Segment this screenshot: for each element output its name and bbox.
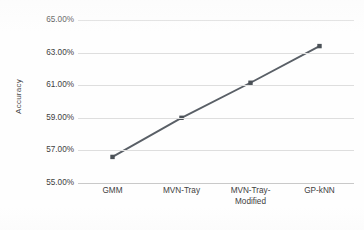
x-tick-label: GMM	[78, 186, 148, 197]
y-tick-label: 59.00%	[22, 113, 74, 122]
gridline	[78, 53, 354, 54]
x-tick-label-line: GP-kNN	[285, 186, 355, 197]
y-tick-label: 55.00%	[22, 178, 74, 187]
accuracy-series: GMM: 56.60%MVN-Tray: 59.00%MVN-Tray-Modi…	[78, 20, 354, 183]
y-tick-label: 65.00%	[22, 15, 74, 24]
gridline	[78, 20, 354, 21]
x-tick-label-line: Modified	[216, 197, 286, 208]
gridline	[78, 183, 354, 184]
x-tick-label: MVN-Tray-Modified	[216, 186, 286, 207]
data-point-marker: GP-kNN: 63.40%	[317, 44, 321, 48]
x-axis-tick-labels: GMMMVN-TrayMVN-Tray-ModifiedGP-kNN	[78, 186, 354, 228]
x-tick-label: GP-kNN	[285, 186, 355, 197]
y-axis-tick-labels: 65.00%63.00%61.00%59.00%57.00%55.00%	[22, 0, 74, 230]
gridline	[78, 85, 354, 86]
data-point-marker: GMM: 56.60%	[110, 155, 114, 159]
x-tick-label-line: MVN-Tray	[147, 186, 217, 197]
accuracy-line-chart: Accuracy 65.00%63.00%61.00%59.00%57.00%5…	[0, 0, 364, 230]
series-line	[113, 46, 320, 157]
x-tick-label-line: MVN-Tray-	[216, 186, 286, 197]
y-tick-label: 61.00%	[22, 80, 74, 89]
x-tick-label: MVN-Tray	[147, 186, 217, 197]
x-tick-label-line: GMM	[78, 186, 148, 197]
y-tick-label: 63.00%	[22, 48, 74, 57]
y-tick-label: 57.00%	[22, 145, 74, 154]
gridline	[78, 118, 354, 119]
plot-area: GMM: 56.60%MVN-Tray: 59.00%MVN-Tray-Modi…	[78, 20, 354, 183]
gridline	[78, 150, 354, 151]
